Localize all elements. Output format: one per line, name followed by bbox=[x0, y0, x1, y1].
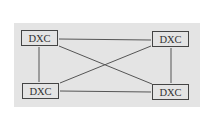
node-label: DXC bbox=[159, 34, 181, 45]
dxc-node-bottom-left: DXC bbox=[22, 83, 59, 99]
node-label: DXC bbox=[28, 33, 50, 44]
dxc-node-bottom-right: DXC bbox=[152, 84, 189, 100]
link-bl-br bbox=[60, 91, 151, 92]
link-tl-tr bbox=[59, 39, 151, 40]
node-label: DXC bbox=[159, 87, 181, 98]
dxc-node-top-right: DXC bbox=[152, 31, 189, 47]
dxc-node-top-left: DXC bbox=[21, 30, 58, 46]
node-label: DXC bbox=[29, 86, 51, 97]
